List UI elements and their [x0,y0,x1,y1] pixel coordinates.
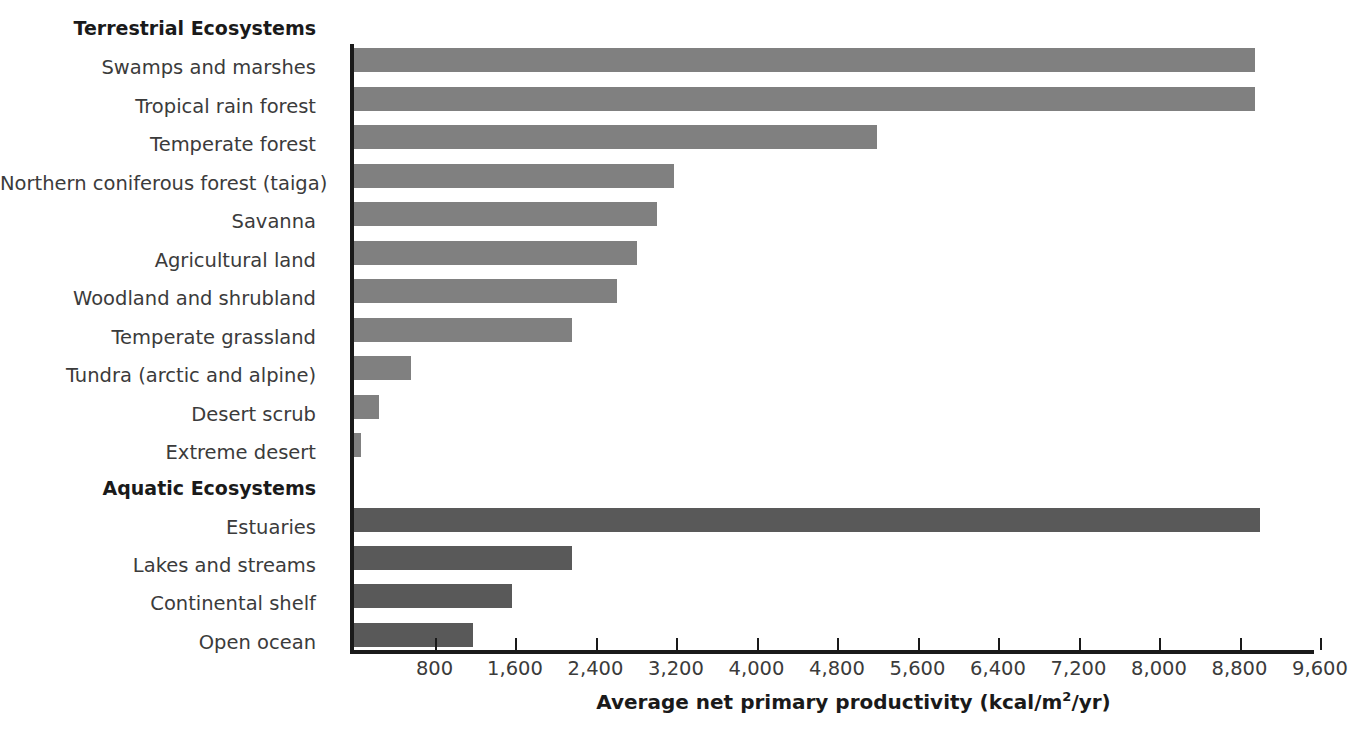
x-axis-title-prefix: Average net primary productivity (kcal/m [596,690,1062,714]
category-label: Northern coniferous forest (taiga) [0,174,316,194]
bar [354,546,572,570]
x-axis-line [350,650,1314,654]
x-axis-tick-label: 8,000 [1114,657,1204,680]
x-axis-tick [515,638,517,650]
x-axis-tick-label: 6,400 [953,657,1043,680]
bar [354,125,877,149]
bar [354,87,1255,111]
category-label: Lakes and streams [0,556,316,576]
bar [354,202,657,226]
x-axis-tick-label: 1,600 [470,657,560,680]
x-axis-tick [998,638,1000,650]
x-axis-tick-label: 9,600 [1275,657,1357,680]
x-axis-tick-label: 4,800 [792,657,882,680]
bar [354,433,361,457]
x-axis-tick [1159,638,1161,650]
bar [354,241,637,265]
x-axis-tick [1320,638,1322,650]
bar [354,164,674,188]
x-axis-tick [918,638,920,650]
category-label: Temperate forest [0,135,316,155]
bar [354,279,617,303]
category-label: Agricultural land [0,251,316,271]
category-label: Tundra (arctic and alpine) [0,366,316,386]
x-axis-tick-label: 800 [390,657,480,680]
x-axis-tick-label: 4,000 [712,657,802,680]
x-axis-tick [757,638,759,650]
category-label: Estuaries [0,518,316,538]
x-axis-tick-label: 3,200 [631,657,721,680]
x-axis-tick-label: 2,400 [551,657,641,680]
group-header-label: Aquatic Ecosystems [0,478,316,498]
bar [354,318,572,342]
x-axis-tick-label: 7,200 [1034,657,1124,680]
category-label: Extreme desert [0,443,316,463]
bar [354,584,512,608]
x-axis-tick [1079,638,1081,650]
x-axis-tick [435,638,437,650]
x-axis-tick-label: 8,800 [1195,657,1285,680]
category-label: Swamps and marshes [0,58,316,78]
group-header-label: Terrestrial Ecosystems [0,18,316,38]
category-label: Woodland and shrubland [0,289,316,309]
bar [354,356,411,380]
category-label: Continental shelf [0,594,316,614]
bar [354,508,1260,532]
x-axis-tick [1240,638,1242,650]
x-axis-tick [676,638,678,650]
bar [354,395,379,419]
category-label: Desert scrub [0,405,316,425]
bar [354,623,473,647]
x-axis-title-suffix: /yr) [1071,690,1110,714]
category-label: Open ocean [0,633,316,653]
category-label-column: Terrestrial EcosystemsSwamps and marshes… [0,0,340,650]
category-label: Temperate grassland [0,328,316,348]
bar [354,48,1255,72]
category-label: Savanna [0,212,316,232]
x-axis-tick-label: 5,600 [873,657,963,680]
plot-area [350,0,1357,650]
x-axis-tick [596,638,598,650]
x-axis-tick [837,638,839,650]
npp-bar-chart: Terrestrial EcosystemsSwamps and marshes… [0,0,1357,754]
x-axis-title: Average net primary productivity (kcal/m… [350,690,1357,714]
category-label: Tropical rain forest [0,97,316,117]
